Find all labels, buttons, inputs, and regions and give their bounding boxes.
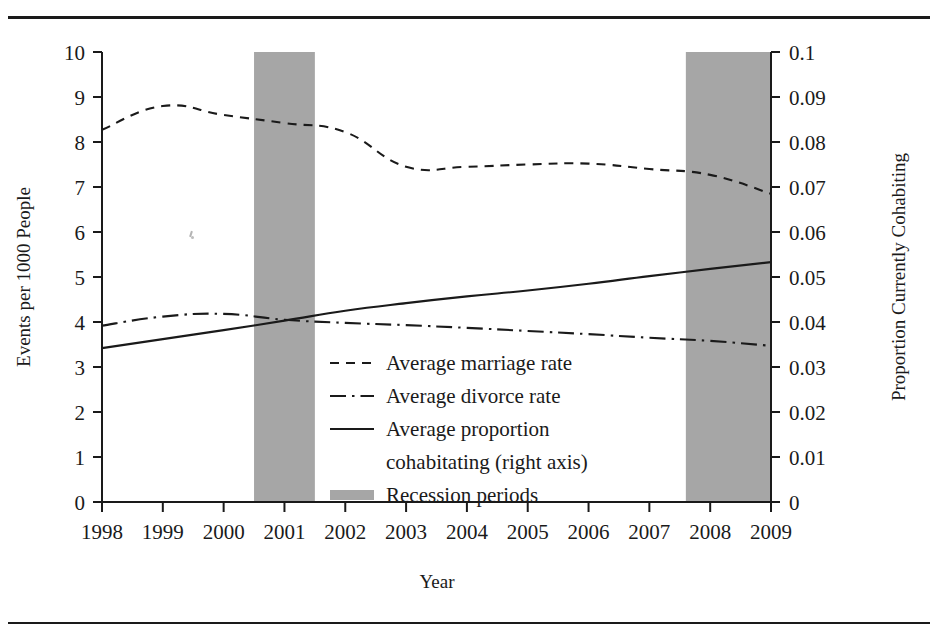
x-axis-tick-label: 2003	[385, 520, 427, 544]
series-line	[102, 105, 771, 193]
left-axis-tick-label: 0	[75, 491, 86, 515]
right-axis-tick-label: 0.09	[789, 86, 826, 110]
chart-svg: 012345678910 00.010.020.030.040.050.060.…	[0, 0, 938, 633]
legend-group: Average marriage rateAverage divorce rat…	[330, 351, 588, 507]
x-axis-tick-label: 2004	[446, 520, 489, 544]
right-axis-tick-label: 0.02	[789, 401, 826, 425]
legend-item-label: Average divorce rate	[386, 384, 561, 408]
left-axis-ticks-group: 012345678910	[64, 41, 102, 515]
x-axis-tick-label: 1999	[142, 520, 184, 544]
left-axis-tick-label: 4	[75, 311, 86, 335]
x-axis-tick-label: 2002	[324, 520, 366, 544]
x-axis-title: Year	[419, 571, 455, 592]
left-axis-title: Events per 1000 People	[13, 187, 34, 367]
x-axis-tick-label: 2009	[750, 520, 792, 544]
bottom-axis-ticks-group: 1998199920002001200220032004200520062007…	[81, 502, 792, 544]
left-axis-tick-label: 9	[75, 86, 86, 110]
left-axis-tick-label: 5	[75, 266, 86, 290]
legend-swatch-recession	[330, 490, 374, 500]
right-axis-title: Proportion Currently Cohabiting	[888, 152, 909, 401]
x-axis-tick-label: 2001	[263, 520, 305, 544]
series-line	[102, 262, 771, 348]
right-axis-ticks-group: 00.010.020.030.040.050.060.070.080.090.1	[771, 41, 826, 515]
x-axis-tick-label: 2007	[628, 520, 670, 544]
left-axis-tick-label: 10	[64, 41, 85, 65]
recession-band	[686, 52, 771, 502]
right-axis-tick-label: 0.01	[789, 446, 826, 470]
x-axis-tick-label: 2005	[507, 520, 549, 544]
right-axis-tick-label: 0.07	[789, 176, 826, 200]
series-lines-group	[102, 105, 771, 348]
x-axis-tick-label: 2000	[203, 520, 245, 544]
x-axis-tick-label: 2008	[689, 520, 731, 544]
left-axis-tick-label: 3	[75, 356, 86, 380]
right-axis-tick-label: 0.03	[789, 356, 826, 380]
left-axis-tick-label: 1	[75, 446, 86, 470]
right-axis-tick-label: 0.06	[789, 221, 826, 245]
right-axis-tick-label: 0.1	[789, 41, 815, 65]
x-axis-tick-label: 2006	[568, 520, 610, 544]
left-axis-tick-label: 6	[75, 221, 86, 245]
legend-item-label: Average proportion	[386, 417, 550, 441]
right-axis-tick-label: 0	[789, 491, 800, 515]
right-axis-tick-label: 0.08	[789, 131, 826, 155]
legend-item-label: Average marriage rate	[386, 351, 572, 375]
left-axis-tick-label: 2	[75, 401, 86, 425]
right-axis-tick-label: 0.05	[789, 266, 826, 290]
legend-item-label: Recession periods	[386, 483, 538, 507]
left-axis-tick-label: 8	[75, 131, 86, 155]
left-axis-tick-label: 7	[75, 176, 86, 200]
right-axis-tick-label: 0.04	[789, 311, 826, 335]
legend-item-label-continuation: cohabitating (right axis)	[386, 450, 588, 474]
figure-container: 012345678910 00.010.020.030.040.050.060.…	[0, 0, 938, 633]
series-line	[102, 314, 771, 346]
x-axis-tick-label: 1998	[81, 520, 123, 544]
